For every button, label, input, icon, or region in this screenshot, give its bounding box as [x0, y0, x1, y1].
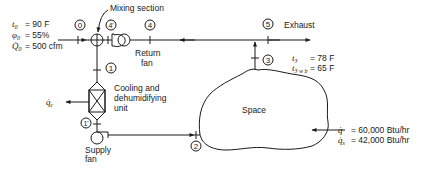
cooling-unit-label-3: unit — [114, 103, 128, 113]
svg-text:= 60,000 Btu/hr: = 60,000 Btu/hr — [351, 125, 410, 135]
svg-text:3: 3 — [266, 56, 271, 65]
mixing-section-icon — [91, 34, 103, 46]
svg-text:φ0: φ0 — [12, 30, 20, 41]
supply-fan-icon — [91, 132, 108, 144]
space-label: Space — [242, 105, 266, 115]
state-point-5: 5 — [263, 19, 273, 29]
return-fan-icon — [112, 34, 130, 47]
svg-text:q̇: q̇ — [338, 125, 343, 135]
svg-text:1': 1' — [83, 120, 88, 127]
state-point-4: 4 — [145, 20, 155, 30]
svg-text:= 55%: = 55% — [25, 30, 50, 40]
mixing-section-label: Mixing section — [110, 3, 164, 13]
cooling-unit-label-2: dehumidifying — [114, 93, 167, 103]
space-conditions: t3 = 78 F t3 w b = 65 F — [292, 53, 334, 74]
qc-label: q̇c — [46, 97, 54, 108]
state-point-3: 3 — [263, 55, 273, 65]
state-point-2: 2 — [191, 141, 201, 151]
state-point-1: 1 — [106, 63, 116, 73]
svg-text:t0: t0 — [12, 19, 18, 30]
state-point-4prime: 4' — [106, 20, 116, 30]
state-point-0: 0 — [75, 20, 85, 30]
mixing-section-leader — [98, 10, 108, 32]
state-point-1prime: 1' — [81, 118, 91, 128]
svg-text:= 78 F: = 78 F — [310, 53, 334, 63]
return-fan-label-2: fan — [141, 58, 153, 68]
svg-text:4: 4 — [148, 21, 153, 30]
svg-text:= 500 cfm: = 500 cfm — [25, 41, 63, 51]
return-fan-label-1: Return — [135, 48, 161, 58]
exhaust-label: Exhaust — [284, 20, 315, 30]
svg-text:= 90 F: = 90 F — [25, 19, 49, 29]
svg-text:2: 2 — [194, 142, 199, 151]
cooling-unit-label-1: Cooling and — [114, 83, 160, 93]
svg-text:5: 5 — [266, 20, 271, 29]
system-schematic: 0 4' 4 5 3 1 1' 2 Mixing section Return … — [0, 0, 428, 172]
space-loads: q̇ = 60,000 Btu/hr q̇s = 42,000 Btu/hr — [338, 125, 410, 146]
svg-text:t3 w b: t3 w b — [292, 63, 308, 74]
svg-text:Q̇0: Q̇0 — [12, 41, 22, 52]
svg-text:1: 1 — [109, 64, 114, 73]
svg-text:= 65 F: = 65 F — [310, 63, 334, 73]
svg-text:= 42,000 Btu/hr: = 42,000 Btu/hr — [351, 135, 410, 145]
svg-text:0: 0 — [78, 21, 83, 30]
svg-text:q̇s: q̇s — [338, 135, 346, 146]
cooling-coil-icon — [89, 82, 105, 120]
svg-text:4': 4' — [108, 22, 113, 29]
supply-fan-label-2: fan — [85, 154, 97, 164]
outdoor-conditions: t0 = 90 F φ0 = 55% Q̇0 = 500 cfm — [12, 19, 63, 52]
